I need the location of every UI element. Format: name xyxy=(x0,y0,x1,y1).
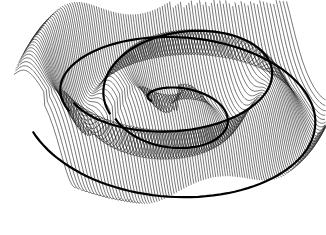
surface-line xyxy=(274,4,325,119)
surface-line xyxy=(244,3,323,146)
surface-line xyxy=(15,66,79,189)
surface-lines xyxy=(14,0,326,204)
surface-line xyxy=(209,6,297,168)
surface-line xyxy=(287,1,326,99)
surface-illustration xyxy=(0,0,326,235)
surface-line xyxy=(32,30,120,200)
surface-line xyxy=(30,34,114,199)
surface-line xyxy=(217,4,303,164)
